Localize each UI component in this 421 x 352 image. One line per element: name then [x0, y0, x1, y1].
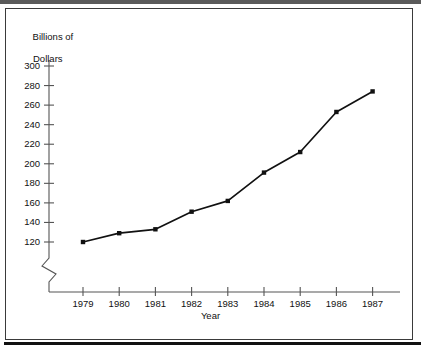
bottom-rule — [4, 342, 421, 345]
x-tick-label: 1986 — [319, 298, 353, 309]
y-tick-label: 140 — [14, 216, 40, 227]
y-tick-label: 240 — [14, 119, 40, 130]
y-tick-label: 160 — [14, 197, 40, 208]
x-tick-label: 1984 — [247, 298, 281, 309]
x-tick-label: 1982 — [175, 298, 209, 309]
y-axis-break-symbol — [42, 252, 56, 292]
x-tick-label: 1983 — [211, 298, 245, 309]
data-point-marker — [226, 199, 230, 203]
data-point-marker — [298, 150, 302, 154]
chart-figure: Billions of Dollars Year 120140160180200… — [0, 0, 421, 352]
x-tick-label: 1980 — [102, 298, 136, 309]
data-point-markers — [81, 89, 375, 244]
x-axis-title: Year — [0, 310, 421, 321]
data-point-marker — [334, 110, 338, 114]
y-tick-label: 220 — [14, 138, 40, 149]
x-tick-label: 1979 — [66, 298, 100, 309]
data-point-marker — [81, 240, 85, 244]
y-tick-label: 200 — [14, 158, 40, 169]
data-point-marker — [153, 227, 157, 231]
y-tick-label: 280 — [14, 80, 40, 91]
x-tick-label: 1985 — [283, 298, 317, 309]
data-point-marker — [117, 231, 121, 235]
x-tick-label: 1987 — [356, 298, 390, 309]
y-tick-label: 120 — [14, 236, 40, 247]
y-axis-title-line-1: Billions of — [33, 31, 74, 42]
data-point-marker — [370, 89, 374, 93]
y-tick-label: 300 — [14, 60, 40, 71]
data-point-marker — [189, 209, 193, 213]
data-point-marker — [262, 170, 266, 174]
y-tick-label: 180 — [14, 177, 40, 188]
x-tick-label: 1981 — [138, 298, 172, 309]
y-tick-label: 260 — [14, 99, 40, 110]
y-axis-title: Billions of Dollars — [22, 20, 73, 86]
data-series-line — [83, 91, 373, 242]
